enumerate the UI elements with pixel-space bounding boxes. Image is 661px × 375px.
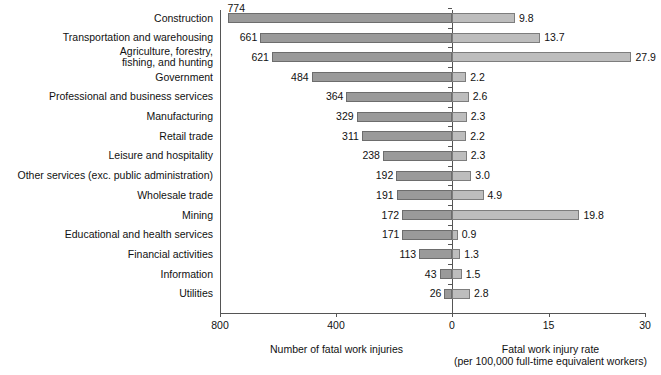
- bar-left-injuries: [228, 13, 452, 23]
- bar-right-rate: [452, 230, 458, 240]
- left-panel-value-axis: [220, 10, 221, 314]
- bar-left-injuries: [362, 131, 452, 141]
- bar-left-injuries: [402, 230, 452, 240]
- value-label-rate: 19.8: [583, 210, 603, 221]
- axis-tick-label: 800: [195, 320, 245, 331]
- row-tick: [448, 126, 452, 127]
- row-tick: [448, 185, 452, 186]
- axis-tick: [452, 313, 453, 317]
- bar-left-injuries: [346, 92, 452, 102]
- axis-tick-label: 400: [311, 320, 361, 331]
- value-label-rate: 9.8: [519, 13, 534, 24]
- value-label-rate: 1.5: [466, 269, 481, 280]
- bar-right-rate: [452, 210, 579, 220]
- row-tick: [448, 87, 452, 88]
- bar-right-rate: [452, 269, 462, 279]
- left-axis-title: Number of fatal work injuries: [220, 343, 453, 355]
- bar-left-injuries: [440, 269, 452, 279]
- bar-left-injuries: [357, 112, 452, 122]
- row-tick: [448, 244, 452, 245]
- bar-right-rate: [452, 151, 467, 161]
- value-label-rate: 2.6: [473, 91, 488, 102]
- row-tick: [448, 28, 452, 29]
- value-label-injuries: 171: [359, 229, 399, 240]
- row-tick: [448, 146, 452, 147]
- bar-right-rate: [452, 190, 484, 200]
- bar-left-injuries: [397, 190, 452, 200]
- row-tick: [448, 8, 452, 9]
- value-label-injuries: 113: [376, 249, 416, 260]
- bar-right-rate: [452, 13, 515, 23]
- row-tick: [448, 67, 452, 68]
- bar-right-rate: [452, 249, 460, 259]
- value-label-injuries: 621: [229, 52, 269, 63]
- value-label-injuries: 311: [319, 131, 359, 142]
- value-label-injuries: 191: [354, 190, 394, 201]
- bar-left-injuries: [260, 33, 452, 43]
- bar-right-rate: [452, 131, 466, 141]
- bar-right-rate: [452, 171, 471, 181]
- value-label-injuries: 774: [228, 3, 268, 14]
- value-label-rate: 3.0: [475, 170, 490, 181]
- bar-left-injuries: [396, 171, 452, 181]
- value-label-rate: 0.9: [462, 229, 477, 240]
- axis-tick-label: 15: [524, 320, 574, 331]
- axis-tick-label: 30: [620, 320, 661, 331]
- bar-right-rate: [452, 112, 467, 122]
- value-label-injuries: 43: [397, 269, 437, 280]
- bar-right-rate: [452, 52, 631, 62]
- axis-tick: [220, 313, 221, 317]
- bar-left-injuries: [444, 289, 452, 299]
- row-tick: [448, 166, 452, 167]
- plot-area: 7749.866113.762127.94842.23642.63292.331…: [0, 0, 661, 375]
- row-tick: [448, 47, 452, 48]
- row-tick: [448, 284, 452, 285]
- value-label-injuries: 172: [359, 210, 399, 221]
- axis-tick: [645, 313, 646, 317]
- value-label-rate: 2.8: [474, 288, 489, 299]
- bar-left-injuries: [272, 52, 452, 62]
- value-label-rate: 1.3: [464, 249, 479, 260]
- value-label-injuries: 329: [314, 111, 354, 122]
- row-tick: [448, 264, 452, 265]
- value-label-rate: 2.3: [471, 111, 486, 122]
- row-tick: [448, 107, 452, 108]
- axis-tick: [336, 313, 337, 317]
- value-label-rate: 4.9: [488, 190, 503, 201]
- value-label-rate: 13.7: [544, 32, 564, 43]
- value-label-injuries: 26: [401, 288, 441, 299]
- bar-right-rate: [452, 92, 469, 102]
- value-label-injuries: 364: [303, 91, 343, 102]
- bar-left-injuries: [419, 249, 452, 259]
- fatal-work-injuries-chart: ConstructionTransportation and warehousi…: [0, 0, 661, 375]
- value-label-injuries: 484: [269, 72, 309, 83]
- bar-left-injuries: [383, 151, 452, 161]
- value-label-rate: 2.2: [470, 72, 485, 83]
- bar-right-rate: [452, 33, 540, 43]
- value-label-rate: 2.3: [471, 150, 486, 161]
- value-label-injuries: 661: [217, 32, 257, 43]
- bar-right-rate: [452, 289, 470, 299]
- axis-tick-label: 0: [427, 320, 477, 331]
- bar-left-injuries: [312, 72, 452, 82]
- bar-left-injuries: [402, 210, 452, 220]
- value-label-rate: 27.9: [635, 52, 655, 63]
- value-label-injuries: 192: [353, 170, 393, 181]
- value-label-rate: 2.2: [470, 131, 485, 142]
- right-axis-title: Fatal work injury rate (per 100,000 full…: [440, 343, 661, 367]
- axis-tick: [549, 313, 550, 317]
- value-label-injuries: 238: [340, 150, 380, 161]
- bar-right-rate: [452, 72, 466, 82]
- row-tick: [448, 225, 452, 226]
- row-tick: [448, 205, 452, 206]
